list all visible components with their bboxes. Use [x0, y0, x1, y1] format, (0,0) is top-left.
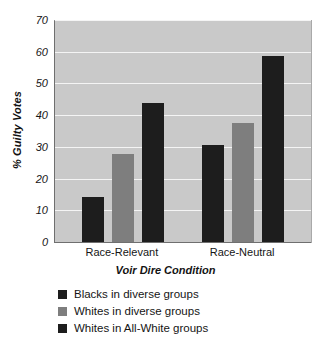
x-axis-line	[54, 242, 311, 243]
legend-swatch	[58, 290, 67, 299]
legend-swatch	[58, 307, 67, 316]
chart-figure: % Guilty Votes 010203040506070 Race-Rele…	[0, 0, 331, 344]
bar-group	[202, 21, 284, 243]
bar	[202, 145, 224, 243]
legend-label: Blacks in diverse groups	[74, 288, 199, 300]
chart-legend: Blacks in diverse groupsWhites in divers…	[58, 286, 318, 337]
legend-item: Whites in diverse groups	[58, 303, 318, 319]
y-tick-label: 60	[36, 46, 48, 58]
legend-label: Whites in diverse groups	[74, 305, 200, 317]
x-tick-label: Race-Neutral	[210, 246, 275, 258]
bar	[262, 56, 284, 243]
legend-label: Whites in All-White groups	[74, 322, 208, 334]
bar	[112, 154, 134, 243]
y-tick-label: 10	[36, 204, 48, 216]
bar-groups	[55, 21, 311, 243]
legend-swatch	[58, 324, 67, 333]
bar-group	[82, 21, 164, 243]
y-tick-label: 70	[36, 14, 48, 26]
plot-area	[54, 20, 312, 243]
y-axis-tick-labels: 010203040506070	[22, 14, 52, 242]
y-tick-label: 20	[36, 173, 48, 185]
y-tick-label: 50	[36, 77, 48, 89]
legend-item: Blacks in diverse groups	[58, 286, 318, 302]
y-tick-label: 30	[36, 141, 48, 153]
legend-item: Whites in All-White groups	[58, 320, 318, 336]
x-axis-tick-labels: Race-RelevantRace-Neutral	[54, 246, 311, 262]
y-tick-label: 0	[42, 236, 48, 248]
y-tick-label: 40	[36, 109, 48, 121]
bar	[232, 123, 254, 244]
x-axis-title: Voir Dire Condition	[0, 264, 331, 276]
x-tick-label: Race-Relevant	[85, 246, 158, 258]
bar	[142, 103, 164, 243]
bar	[82, 197, 104, 243]
